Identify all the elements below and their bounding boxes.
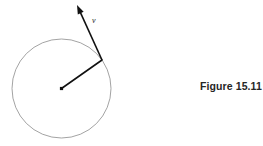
circle-center-point (60, 87, 63, 90)
velocity-vector-shaft (80, 11, 102, 60)
figure-container: v Figure 15.11 (0, 0, 263, 146)
figure-diagram: v (0, 0, 263, 146)
velocity-vector-label: v (92, 16, 96, 25)
velocity-vector-arrowhead-icon (77, 5, 84, 15)
figure-caption: Figure 15.11 (200, 80, 262, 92)
radius-line (62, 60, 103, 89)
